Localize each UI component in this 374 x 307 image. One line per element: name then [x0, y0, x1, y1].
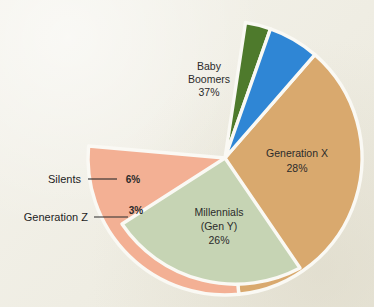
- slice-value-silents: 6%: [126, 174, 141, 185]
- slice-label-baby-boomers-line1: Baby: [197, 60, 222, 72]
- slice-label-baby-boomers-line2: Boomers: [188, 73, 230, 85]
- slice-value-generation-z: 3%: [129, 205, 144, 216]
- pie-chart-svg: Baby Boomers 37% Generation X 28% Millen…: [0, 0, 374, 307]
- slice-label-generation-x: Generation X: [266, 147, 328, 159]
- pie-chart-figure: Baby Boomers 37% Generation X 28% Millen…: [0, 0, 374, 307]
- slice-label-millennials-line1: Millennials: [194, 206, 243, 218]
- callout-label-silents: Silents: [48, 173, 82, 185]
- slice-label-millennials-line2: (Gen Y): [201, 220, 238, 232]
- slice-value-millennials: 26%: [208, 234, 229, 246]
- slice-value-baby-boomers: 37%: [198, 86, 219, 98]
- slice-value-generation-x: 28%: [286, 162, 307, 174]
- callout-label-generation-z: Generation Z: [24, 211, 88, 223]
